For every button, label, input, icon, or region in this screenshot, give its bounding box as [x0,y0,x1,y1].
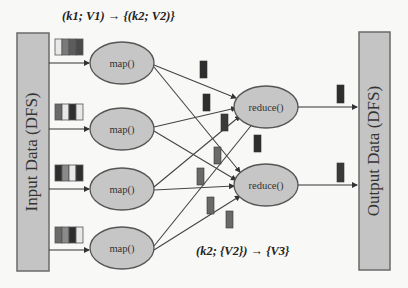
output-blocks [337,85,344,182]
reduce-node-2: reduce() [234,164,298,206]
map-signature-formula: (k1; V1) → {(k2; V2)} [62,9,175,24]
map-node-2: map() [90,108,154,150]
output-arrows [298,107,357,185]
mapreduce-diagram: Input Data (DFS) Output Data (DFS) [0,0,408,288]
input-record-block-2 [55,104,83,120]
input-record-block-4 [55,227,83,243]
map-node-label: map() [109,124,135,136]
input-record-block-1 [55,39,83,55]
map-node-1: map() [90,42,154,84]
reduce-node-1: reduce() [234,86,298,128]
reduce-signature-formula: (k2; {V2}) → {V3} [196,244,289,259]
reduce-node-label: reduce() [249,180,284,192]
reduce-node-label: reduce() [249,102,284,114]
output-data-box: Output Data (DFS) [359,32,390,270]
map-node-label: map() [109,184,135,196]
shuffle-lines [154,65,254,250]
input-arrows [49,63,89,250]
map-node-4: map() [90,227,154,269]
map-node-label: map() [109,58,135,70]
input-record-block-3 [55,165,83,181]
output-data-label: Output Data (DFS) [364,86,383,216]
map-node-label: map() [109,243,135,255]
input-data-box: Input Data (DFS) [17,33,49,271]
map-node-3: map() [90,168,154,210]
input-data-label: Input Data (DFS) [22,93,41,212]
